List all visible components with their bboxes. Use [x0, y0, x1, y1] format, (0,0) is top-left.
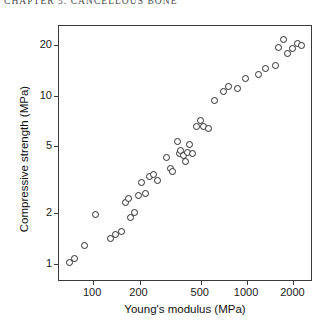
scatter-point: [131, 209, 138, 216]
x-axis-tick: [140, 280, 141, 285]
scatter-point: [92, 211, 99, 218]
scatter-point: [169, 168, 176, 175]
scatter-point: [182, 158, 189, 165]
scatter-point: [280, 36, 287, 43]
y-axis-tick-label: 1: [52, 257, 58, 269]
y-axis-tick-label: 5: [52, 139, 58, 151]
scatter-point: [142, 190, 149, 197]
scatter-point: [81, 242, 88, 249]
x-axis-tick: [93, 280, 94, 285]
scatter-point: [186, 141, 193, 148]
y-axis-title: Compressive strength (MPa): [18, 59, 30, 259]
scatter-point: [205, 125, 212, 132]
scatter-point: [225, 83, 232, 90]
x-axis-tick-label: 100: [83, 286, 101, 298]
scatter-point: [138, 179, 145, 186]
scatter-point: [234, 85, 241, 92]
scatter-point: [255, 71, 262, 78]
scatter-plot-area: [59, 26, 311, 280]
y-axis-tick-label: 20: [52, 38, 64, 50]
x-axis-tick-label: 2000: [280, 286, 304, 298]
x-axis-title: Young's modulus (MPa): [124, 303, 245, 315]
x-axis-tick: [293, 280, 294, 285]
y-axis-tick-label: 10: [52, 89, 64, 101]
scatter-point: [163, 154, 170, 161]
scatter-point: [289, 45, 296, 52]
scatter-point: [125, 195, 132, 202]
scatter-point: [272, 62, 279, 69]
x-axis-tick-label: 1000: [234, 286, 258, 298]
scatter-point: [262, 65, 269, 72]
running-header: CHAPTER 5. CANCELLOUS BONE: [4, 0, 178, 6]
x-axis-tick-label: 200: [129, 286, 147, 298]
scatter-point: [211, 97, 218, 104]
scatter-point: [174, 138, 181, 145]
scatter-point: [71, 255, 78, 262]
y-axis-tick-label: 2: [52, 206, 58, 218]
x-axis-tick: [247, 280, 248, 285]
scatter-point: [189, 150, 196, 157]
x-axis-tick: [201, 280, 202, 285]
textbook-page: CHAPTER 5. CANCELLOUS BONE Young's modul…: [0, 0, 328, 336]
plot-frame: [58, 25, 312, 281]
scatter-point: [298, 42, 305, 49]
x-axis-tick-label: 500: [191, 286, 209, 298]
scatter-point: [135, 192, 142, 199]
scatter-point: [242, 75, 249, 82]
scatter-point: [118, 228, 125, 235]
scatter-point: [154, 177, 161, 184]
scatter-point: [275, 44, 282, 51]
